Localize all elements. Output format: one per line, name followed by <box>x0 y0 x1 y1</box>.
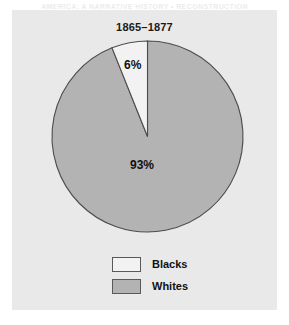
legend-item-blacks[interactable]: Blacks <box>112 253 232 275</box>
running-head: AMERICA: A NARRATIVE HISTORY • RECONSTRU… <box>0 0 289 9</box>
legend-swatch-blacks <box>112 257 141 272</box>
pie-slice-label-blacks: 6% <box>124 58 141 72</box>
legend-swatch-whites <box>112 279 141 294</box>
legend-label-blacks: Blacks <box>152 258 187 270</box>
legend-item-whites[interactable]: Whites <box>112 275 232 297</box>
pie-slice-label-whites: 93% <box>130 158 154 172</box>
legend-label-whites: Whites <box>152 280 188 292</box>
figure-panel: 1865–1877 6% 93% Blacks Whites <box>12 10 277 310</box>
legend: Blacks Whites <box>112 253 232 297</box>
